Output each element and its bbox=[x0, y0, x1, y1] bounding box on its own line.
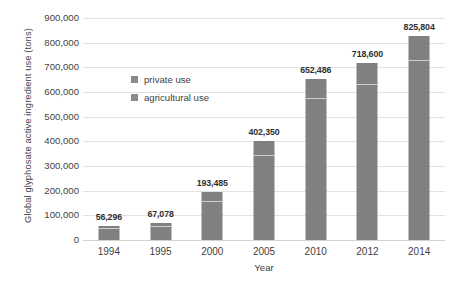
bar-data-label: 825,804 bbox=[404, 22, 435, 32]
plot-area: 56,29667,078193,485402,350652,486718,600… bbox=[83, 18, 445, 240]
bar-segment-divider bbox=[305, 98, 326, 99]
bar-data-label: 402,350 bbox=[248, 127, 279, 137]
bar-1994 bbox=[98, 226, 119, 240]
bar-segment-agricultural-use bbox=[98, 229, 119, 240]
bar-segment-private-use bbox=[409, 36, 430, 61]
bar-1995 bbox=[150, 223, 171, 240]
bar-data-label: 193,485 bbox=[197, 178, 228, 188]
bar-data-label: 56,296 bbox=[96, 212, 122, 222]
bar-segment-agricultural-use bbox=[305, 99, 326, 240]
bar-segment-divider bbox=[253, 155, 274, 156]
legend-label-agricultural-use: agricultural use bbox=[144, 92, 209, 103]
bar-segment-agricultural-use bbox=[357, 85, 378, 240]
bar-segment-private-use bbox=[305, 79, 326, 99]
bar-segment-divider bbox=[409, 60, 430, 61]
y-axis-tick-label: 100,000 bbox=[15, 209, 79, 220]
y-axis-tick-label: 0 bbox=[15, 234, 79, 245]
bar-slot bbox=[393, 18, 445, 240]
bar-segment-private-use bbox=[357, 63, 378, 85]
legend-item-agricultural-use: agricultural use bbox=[131, 88, 209, 106]
y-axis-tick-label: 500,000 bbox=[15, 111, 79, 122]
bar-slot bbox=[135, 18, 187, 240]
gridline bbox=[83, 240, 445, 241]
x-axis-tick-label: 2014 bbox=[389, 246, 449, 257]
bar-2012 bbox=[357, 63, 378, 240]
bar-segment-agricultural-use bbox=[202, 202, 223, 240]
bar-segment-agricultural-use bbox=[409, 61, 430, 240]
bar-segment-divider bbox=[98, 228, 119, 229]
bar-segment-divider bbox=[150, 226, 171, 227]
legend-swatch-private-use-icon bbox=[131, 76, 138, 83]
bar-slot bbox=[83, 18, 135, 240]
legend-label-private-use: private use bbox=[144, 74, 191, 85]
bar-segment-private-use bbox=[253, 141, 274, 156]
y-axis-tick-label: 400,000 bbox=[15, 135, 79, 146]
bar-data-label: 67,078 bbox=[147, 209, 173, 219]
legend-item-private-use: private use bbox=[131, 70, 209, 88]
legend-swatch-agricultural-use-icon bbox=[131, 94, 138, 101]
bar-slot bbox=[186, 18, 238, 240]
bar-slot bbox=[290, 18, 342, 240]
bar-2000 bbox=[202, 192, 223, 240]
y-axis-tick-label: 900,000 bbox=[15, 12, 79, 23]
bar-2010 bbox=[305, 79, 326, 240]
bar-segment-divider bbox=[202, 201, 223, 202]
bar-segment-agricultural-use bbox=[253, 156, 274, 240]
bar-2005 bbox=[253, 141, 274, 240]
y-axis-tick-label: 600,000 bbox=[15, 86, 79, 97]
y-axis-tick-label: 200,000 bbox=[15, 185, 79, 196]
y-axis-tick-label: 800,000 bbox=[15, 37, 79, 48]
bar-segment-divider bbox=[357, 84, 378, 85]
x-axis-title: Year bbox=[234, 262, 294, 273]
y-axis-tick-label: 700,000 bbox=[15, 61, 79, 72]
bar-data-label: 652,486 bbox=[300, 65, 331, 75]
y-axis-tick-label: 300,000 bbox=[15, 160, 79, 171]
bar-segment-agricultural-use bbox=[150, 227, 171, 240]
chart-legend: private use agricultural use bbox=[131, 70, 209, 106]
bar-2014 bbox=[409, 36, 430, 240]
glyphosate-use-bar-chart: Global glyphosate active ingredient use … bbox=[0, 0, 460, 284]
bar-data-label: 718,600 bbox=[352, 49, 383, 59]
